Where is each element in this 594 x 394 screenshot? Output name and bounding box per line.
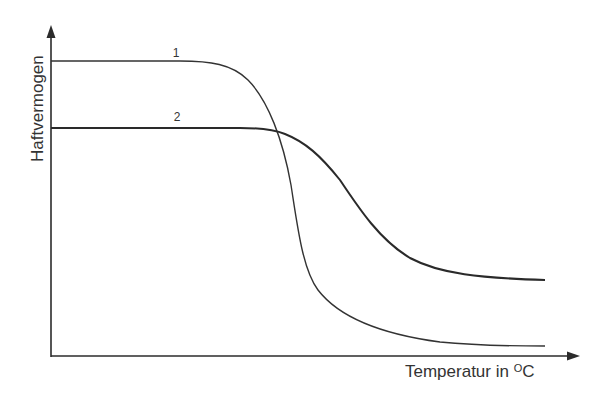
series-2-label: 2 — [174, 110, 181, 124]
x-axis-arrow-icon — [567, 352, 580, 361]
series-1-curve — [51, 61, 545, 346]
series-1-label: 1 — [173, 46, 180, 60]
y-axis-label: Haftvermogen — [28, 55, 47, 162]
x-axis-label: Temperatur in OC — [405, 362, 535, 381]
x-axis-label-unit: C — [522, 362, 534, 381]
x-axis-label-main: Temperatur in — [405, 362, 514, 381]
y-axis-arrow-icon — [47, 25, 56, 38]
chart: 1 2 Haftvermogen Temperatur in OC — [0, 0, 594, 394]
series-2-curve — [51, 128, 545, 280]
